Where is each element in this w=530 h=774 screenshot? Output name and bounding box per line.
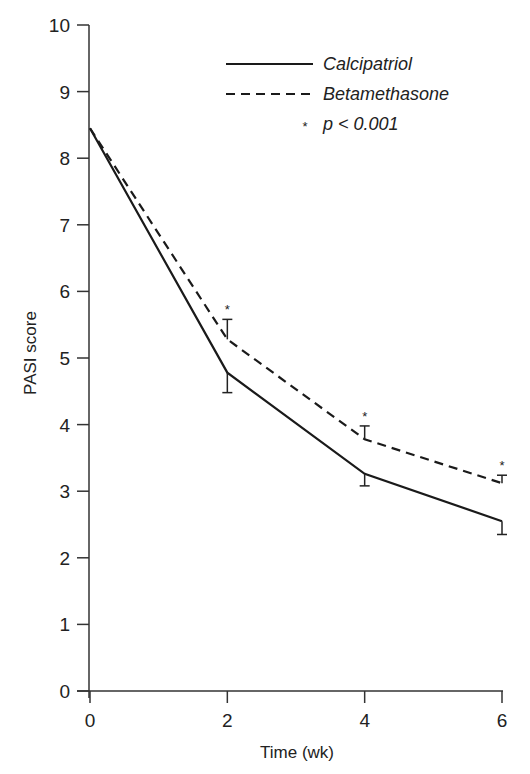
y-tick-label: 6: [59, 281, 70, 302]
x-axis: 0246: [77, 691, 507, 731]
x-tick-label: 0: [85, 710, 96, 731]
y-tick-label: 2: [59, 548, 70, 569]
legend: Calcipatriol Betamethasone * p < 0.001: [226, 54, 449, 134]
y-tick-label: 3: [59, 481, 70, 502]
y-tick-label: 9: [59, 82, 70, 103]
x-tick-label: 6: [497, 710, 508, 731]
x-tick-label: 2: [222, 710, 233, 731]
y-tick-label: 1: [59, 614, 70, 635]
y-axis: 012345678910: [49, 15, 89, 702]
legend-star-icon: *: [302, 119, 307, 134]
significance-star-icon: *: [499, 458, 504, 473]
y-tick-label: 5: [59, 348, 70, 369]
series-line-calcipatriol: [90, 128, 502, 521]
legend-significance-note: p < 0.001: [322, 114, 399, 134]
y-tick-label: 4: [59, 415, 70, 436]
x-axis-title: Time (wk): [260, 743, 334, 762]
series-line-betamethasone: [90, 128, 502, 483]
x-tick-label: 4: [359, 710, 370, 731]
y-tick-label: 8: [59, 148, 70, 169]
significance-star-icon: *: [362, 409, 367, 424]
legend-label-calcipatriol: Calcipatriol: [323, 54, 413, 74]
significance-star-icon: *: [225, 302, 230, 317]
legend-label-betamethasone: Betamethasone: [323, 84, 449, 104]
pasi-line-chart: 012345678910 0246 PASI score Time (wk) *…: [0, 0, 530, 774]
y-axis-title: PASI score: [21, 311, 40, 395]
y-tick-label: 10: [49, 15, 70, 36]
y-tick-label: 0: [59, 681, 70, 702]
series-group: ***: [90, 128, 507, 534]
y-tick-label: 7: [59, 215, 70, 236]
